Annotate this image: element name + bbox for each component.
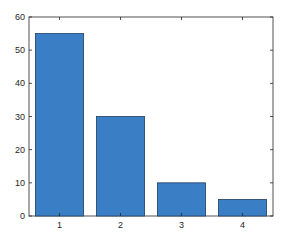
bar-3 (157, 183, 205, 216)
x-tick-label: 2 (118, 220, 123, 230)
y-tick-label: 10 (15, 178, 25, 188)
x-tick-label: 4 (240, 220, 245, 230)
y-tick-label: 0 (20, 211, 25, 221)
bar-2 (96, 117, 144, 217)
bar-chart: 0102030405060 1234 (0, 0, 288, 241)
y-tick-label: 60 (15, 12, 25, 22)
y-tick-label: 50 (15, 45, 25, 55)
x-tick-label: 1 (57, 220, 62, 230)
x-tick-label: 3 (179, 220, 184, 230)
y-tick-label: 40 (15, 78, 25, 88)
bar-1 (35, 34, 83, 216)
y-tick-label: 30 (15, 112, 25, 122)
y-tick-label: 20 (15, 145, 25, 155)
